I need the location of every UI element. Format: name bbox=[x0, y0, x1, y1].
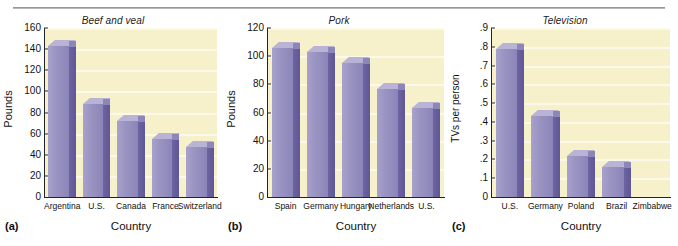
y-tick-labels-a: 020406080100120140160 bbox=[11, 12, 41, 209]
bar-side-face bbox=[103, 104, 110, 197]
bar-front-face bbox=[567, 156, 588, 197]
bar-top-side-face bbox=[553, 111, 560, 117]
bar-side-face bbox=[433, 108, 440, 197]
x-axis-line-b bbox=[267, 197, 445, 198]
y-tick-label: 40 bbox=[253, 136, 264, 146]
y-tick-label: 0 bbox=[258, 192, 264, 202]
bar-front-face bbox=[531, 116, 552, 197]
bar bbox=[531, 116, 552, 197]
y-tick-labels-c: 0.1.2.3.4.5.6.7.8.9 bbox=[458, 12, 488, 209]
x-axis-label-a: Country bbox=[45, 220, 217, 232]
bar bbox=[307, 52, 328, 197]
y-tick-mark bbox=[491, 65, 495, 66]
bar bbox=[602, 167, 623, 197]
bar-top-side-face bbox=[207, 142, 214, 148]
y-tick-label: .4 bbox=[480, 117, 488, 127]
bar-side-face bbox=[398, 89, 405, 197]
bar-side-face bbox=[207, 147, 214, 197]
x-tick-label: U.S. bbox=[418, 201, 435, 211]
y-tick-label: 120 bbox=[247, 23, 264, 33]
bar-front-face bbox=[342, 63, 363, 197]
y-tick-mark bbox=[44, 175, 48, 176]
y-tick-label: 140 bbox=[24, 44, 41, 54]
bar-front-face bbox=[152, 139, 173, 197]
y-tick-mark bbox=[44, 28, 48, 29]
bar-top-side-face bbox=[363, 58, 370, 64]
x-axis-label-c: Country bbox=[492, 220, 670, 232]
bar-top-side-face bbox=[398, 84, 405, 90]
y-tick-label: .7 bbox=[480, 61, 488, 71]
y-tick-label: 80 bbox=[30, 108, 41, 118]
bar-front-face bbox=[496, 49, 517, 197]
bar bbox=[496, 49, 517, 197]
bar bbox=[412, 108, 433, 197]
bar bbox=[152, 139, 173, 197]
bar-front-face bbox=[272, 48, 293, 197]
bar bbox=[186, 147, 207, 197]
y-tick-mark bbox=[44, 49, 48, 50]
y-tick-label: 60 bbox=[253, 108, 264, 118]
y-tick-label: .9 bbox=[480, 23, 488, 33]
bar bbox=[48, 46, 69, 197]
panel-letter-b: (b) bbox=[228, 220, 242, 232]
bar-side-face bbox=[588, 156, 595, 197]
bar-top-side-face bbox=[517, 44, 524, 50]
bar-side-face bbox=[172, 139, 179, 197]
y-tick-mark bbox=[491, 159, 495, 160]
gridline bbox=[45, 28, 217, 30]
y-tick-mark bbox=[267, 28, 271, 29]
y-tick-label: 120 bbox=[24, 65, 41, 75]
bar-top-side-face bbox=[328, 47, 335, 53]
y-tick-mark bbox=[44, 112, 48, 113]
x-tick-label: U.S. bbox=[88, 201, 105, 211]
x-tick-label: Germany bbox=[303, 201, 338, 211]
x-tick-label: Zimbabwe bbox=[633, 201, 672, 211]
y-tick-mark bbox=[491, 46, 495, 47]
bar-front-face bbox=[117, 121, 138, 197]
y-axis-line-a bbox=[44, 28, 45, 198]
y-tick-label: 40 bbox=[30, 150, 41, 160]
plot-area-a bbox=[45, 28, 217, 197]
bar-top-side-face bbox=[433, 103, 440, 109]
bar-front-face bbox=[186, 147, 207, 197]
x-tick-label: Canada bbox=[116, 201, 146, 211]
bar-front-face bbox=[412, 108, 433, 197]
x-tick-label: Hungary bbox=[340, 201, 372, 211]
x-tick-label: U.S. bbox=[502, 201, 519, 211]
bar-side-face bbox=[69, 46, 76, 197]
y-tick-labels-b: 020406080100120 bbox=[234, 12, 264, 209]
bar-side-face bbox=[517, 49, 524, 197]
y-tick-mark bbox=[491, 84, 495, 85]
x-tick-label: Poland bbox=[568, 201, 594, 211]
y-tick-label: 0 bbox=[35, 192, 41, 202]
y-tick-mark bbox=[491, 121, 495, 122]
y-tick-mark bbox=[491, 28, 495, 29]
x-tick-label: Netherlands bbox=[368, 201, 414, 211]
y-tick-mark bbox=[491, 178, 495, 179]
x-tick-label: Brazil bbox=[606, 201, 627, 211]
y-tick-label: .2 bbox=[480, 154, 488, 164]
x-axis-label-b: Country bbox=[268, 220, 444, 232]
bar-front-face bbox=[377, 89, 398, 197]
bar bbox=[567, 156, 588, 197]
bar-top-side-face bbox=[69, 41, 76, 47]
bar-front-face bbox=[307, 52, 328, 197]
bar bbox=[377, 89, 398, 197]
y-tick-mark bbox=[44, 133, 48, 134]
gridline bbox=[492, 28, 670, 30]
bar-top-side-face bbox=[138, 116, 145, 122]
x-axis-line-a bbox=[44, 197, 218, 198]
bar-top-side-face bbox=[103, 99, 110, 105]
y-tick-label: 80 bbox=[253, 79, 264, 89]
bar-front-face bbox=[48, 46, 69, 197]
bar-top-side-face bbox=[293, 43, 300, 49]
chart-panel-b: Pork Pounds 020406080100120 SpainGermany… bbox=[226, 12, 452, 246]
bar-top-side-face bbox=[588, 151, 595, 157]
bar bbox=[342, 63, 363, 197]
y-tick-label: .5 bbox=[480, 98, 488, 108]
y-tick-label: .3 bbox=[480, 136, 488, 146]
y-tick-label: .8 bbox=[480, 42, 488, 52]
y-tick-label: .1 bbox=[480, 173, 488, 183]
bar-side-face bbox=[363, 63, 370, 197]
bar-top-side-face bbox=[172, 134, 179, 140]
